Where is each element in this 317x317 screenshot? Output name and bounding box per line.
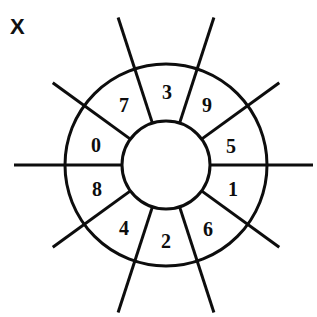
sector-label-0: 0	[91, 135, 101, 155]
sector-label-8: 8	[92, 179, 102, 199]
sector-label-5: 5	[226, 136, 236, 156]
sector-label-6: 6	[203, 219, 213, 239]
spoke-line	[202, 83, 280, 139]
sector-label-2: 2	[161, 231, 171, 251]
sector-label-7: 7	[119, 95, 129, 115]
sector-label-4: 4	[119, 218, 129, 238]
sector-label-1: 1	[228, 179, 238, 199]
wheel-diagram-figure: X 5937084261	[0, 0, 317, 317]
inner-circle	[122, 121, 210, 209]
sector-label-9: 9	[202, 95, 212, 115]
sector-wheel-graphic	[0, 0, 317, 317]
sector-label-3: 3	[162, 82, 172, 102]
spoke-line	[202, 191, 280, 247]
